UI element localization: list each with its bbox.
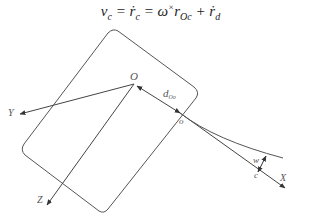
label-origin: O — [130, 70, 138, 82]
z-axis — [47, 84, 134, 205]
y-axis — [20, 84, 134, 114]
width-arrow — [258, 156, 266, 172]
frame-diagram: O Y Z X dOo o w c — [0, 0, 321, 216]
label-distance: dOo — [163, 87, 176, 100]
label-y-axis: Y — [8, 107, 15, 118]
label-x-axis: X — [279, 172, 287, 183]
label-point-c: c — [254, 170, 258, 180]
label-z-axis: Z — [37, 194, 43, 205]
plane-outline — [22, 30, 197, 212]
path-curve — [180, 113, 283, 158]
label-width: w — [253, 155, 259, 165]
label-point-o: o — [179, 116, 184, 126]
